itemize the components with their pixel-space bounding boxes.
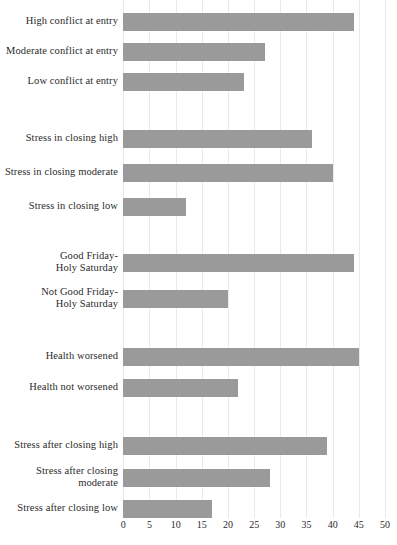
bar-row [123,348,385,366]
x-tick-label-30: 30 [275,519,285,531]
category-label: Health not worsened [0,381,118,393]
x-tick-label-45: 45 [354,519,364,531]
bar-row [123,469,385,487]
bar-row [123,198,385,216]
bar[interactable] [123,130,311,148]
category-label: Stress in closing high [0,132,118,144]
category-label: High conflict at entry [0,15,118,27]
bar-row [123,164,385,182]
bar-row [123,254,385,272]
bar-row [123,130,385,148]
x-tick-label-25: 25 [249,519,259,531]
bar[interactable] [123,198,186,216]
x-tick-label-0: 0 [121,519,126,531]
plot-area [123,0,385,518]
bar[interactable] [123,13,353,31]
bar-row [123,290,385,308]
bar[interactable] [123,469,270,487]
bar[interactable] [123,348,359,366]
category-label: Stress in closing moderate [0,166,118,178]
bar-row [123,500,385,518]
x-tick-label-50: 50 [380,519,390,531]
bar[interactable] [123,500,212,518]
bar[interactable] [123,437,327,455]
bar[interactable] [123,290,228,308]
bar-row [123,379,385,397]
bar[interactable] [123,164,332,182]
category-label: Stress after closing moderate [0,465,118,488]
x-axis: 05101520253035404550 [123,519,385,539]
category-label: Stress in closing low [0,200,118,212]
category-label: Good Friday- Holy Saturday [0,250,118,273]
x-tick-label-40: 40 [328,519,338,531]
bar-row [123,43,385,61]
category-label-list: High conflict at entryModerate conflict … [0,0,118,518]
x-tick-label-20: 20 [223,519,233,531]
bar-row [123,73,385,91]
x-tick-label-35: 35 [301,519,311,531]
category-label: Not Good Friday- Holy Saturday [0,286,118,309]
category-label: Moderate conflict at entry [0,45,118,57]
category-label: Stress after closing high [0,439,118,451]
category-label: Stress after closing low [0,502,118,514]
x-tick-label-5: 5 [147,519,152,531]
bar[interactable] [123,73,243,91]
bar[interactable] [123,43,264,61]
gridline-50 [385,0,386,518]
bar-row [123,13,385,31]
category-label: Health worsened [0,350,118,362]
bar-chart: High conflict at entryModerate conflict … [0,0,397,545]
bar-row [123,437,385,455]
x-tick-label-15: 15 [197,519,207,531]
bar[interactable] [123,254,353,272]
bar[interactable] [123,379,238,397]
category-label: Low conflict at entry [0,75,118,87]
x-tick-label-10: 10 [171,519,181,531]
bar-rows [123,0,385,518]
